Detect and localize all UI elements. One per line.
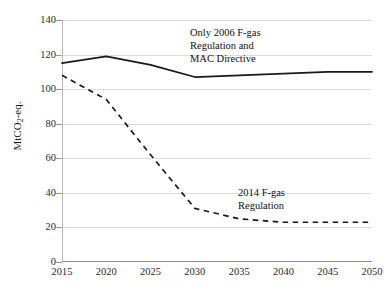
chart-container: MtCO2-eq. 020406080100120140 20152020202… bbox=[0, 0, 390, 300]
annotation-lower-label: 2014 F-gas Regulation bbox=[238, 186, 285, 212]
annotation-upper-label: Only 2006 F-gas Regulation and MAC Direc… bbox=[190, 26, 261, 65]
series-line-2014-regulation bbox=[62, 75, 372, 222]
